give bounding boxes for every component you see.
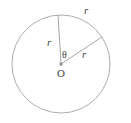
circle-sector-figure: r r r θ O	[0, 0, 131, 123]
center-label-o: O	[57, 68, 65, 79]
figure-canvas	[0, 0, 131, 123]
radius-upper-left-line	[58, 15, 61, 64]
arc-length-label-r: r	[84, 5, 88, 16]
radius-label-left-r: r	[47, 37, 51, 48]
radius-label-right-r: r	[82, 49, 86, 60]
center-point-dot	[60, 63, 63, 66]
central-angle-label-theta: θ	[62, 50, 67, 60]
